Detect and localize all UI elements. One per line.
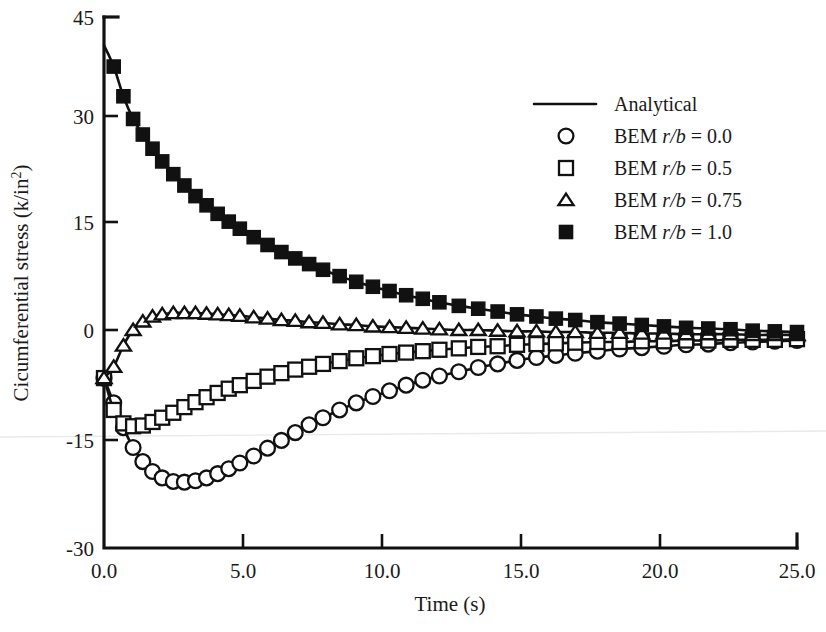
data-point-marker — [451, 364, 466, 379]
data-point-marker — [491, 339, 505, 353]
chart-legend: AnalyticalBEM r/b = 0.0BEM r/b = 0.5BEM … — [534, 93, 742, 243]
data-point-marker — [261, 238, 274, 251]
data-point-marker — [549, 336, 563, 350]
data-point-marker — [274, 366, 288, 380]
data-point-marker — [416, 344, 430, 358]
data-point-marker — [233, 222, 246, 235]
x-tick-label-0: 0.0 — [91, 559, 117, 583]
markers-open-circle — [97, 333, 805, 489]
data-point-marker — [116, 339, 131, 350]
data-point-marker — [702, 322, 715, 335]
data-point-marker — [432, 369, 447, 384]
data-point-marker — [126, 440, 141, 455]
legend-item-1[interactable]: BEM r/b = 0.0 — [559, 125, 732, 147]
data-point-marker — [724, 323, 737, 336]
y-tick-label-neg15: -15 — [66, 429, 94, 453]
data-point-marker — [316, 263, 329, 276]
data-point-marker — [365, 389, 380, 404]
data-point-marker — [247, 231, 260, 244]
data-point-marker — [399, 346, 413, 360]
y-axis-title: Cicumferential stress (k/in2) — [9, 165, 33, 402]
legend-item-3[interactable]: BEM r/b = 0.75 — [558, 189, 742, 211]
data-point-marker — [433, 296, 446, 309]
data-point-marker — [107, 403, 121, 417]
y-axis-title-group: Cicumferential stress (k/in2) — [9, 165, 33, 402]
data-point-marker — [106, 360, 121, 371]
data-point-marker — [333, 354, 347, 368]
data-point-marker — [680, 321, 693, 334]
data-point-marker — [136, 128, 149, 141]
data-point-marker — [260, 441, 275, 456]
data-point-marker — [383, 284, 396, 297]
legend-item-0[interactable]: Analytical — [534, 93, 698, 116]
x-tick-label-25: 25.0 — [779, 559, 816, 583]
x-axis-title: Time (s) — [415, 592, 486, 616]
data-point-marker — [415, 373, 430, 388]
y-tick-label-45: 45 — [73, 6, 94, 30]
data-point-marker — [107, 60, 120, 73]
data-point-marker — [246, 449, 261, 464]
y-tick-label-30: 30 — [73, 105, 94, 129]
y-axis-title-suffix: ) — [9, 165, 33, 172]
data-point-marker — [591, 316, 604, 329]
analytical-curve-1 — [104, 341, 797, 483]
x-tick-label-15: 15.0 — [503, 559, 540, 583]
series-open-circle — [97, 333, 805, 489]
data-point-marker — [529, 337, 543, 351]
data-point-marker — [274, 433, 289, 448]
data-point-marker — [790, 325, 803, 338]
data-point-marker — [117, 90, 130, 103]
data-point-marker — [416, 292, 429, 305]
series-open-square — [97, 332, 804, 433]
data-point-marker — [490, 357, 505, 372]
data-point-marker — [452, 341, 466, 355]
legend-marker-open-circle — [559, 129, 574, 144]
data-point-marker — [472, 302, 485, 315]
y-axis-title-main: Cicumferential stress (k/in — [9, 178, 33, 401]
data-point-marker — [302, 417, 317, 432]
data-point-marker — [350, 275, 363, 288]
x-tick-label-20: 20.0 — [642, 559, 679, 583]
data-point-marker — [316, 410, 331, 425]
legend-label-1: BEM r/b = 0.0 — [614, 125, 732, 147]
data-point-marker — [471, 340, 485, 354]
legend-marker-open-triangle — [558, 194, 573, 205]
data-point-marker — [510, 353, 525, 368]
data-point-marker — [510, 338, 524, 352]
y-axis-ticks — [104, 116, 118, 440]
data-point-marker — [247, 374, 261, 388]
legend-item-2[interactable]: BEM r/b = 0.5 — [559, 157, 732, 179]
data-point-marker — [613, 317, 626, 330]
x-tick-label-5: 5.0 — [230, 559, 256, 583]
data-point-marker — [332, 403, 347, 418]
data-point-marker — [635, 318, 648, 331]
data-point-marker — [303, 257, 316, 270]
data-point-marker — [233, 378, 247, 392]
data-point-marker — [333, 270, 346, 283]
y-tick-label-neg30: -30 — [66, 537, 94, 561]
data-point-marker — [156, 155, 169, 168]
data-point-marker — [471, 360, 486, 375]
data-point-marker — [549, 312, 562, 325]
data-point-marker — [289, 252, 302, 265]
data-point-marker — [261, 370, 275, 384]
data-point-marker — [491, 305, 504, 318]
data-point-marker — [657, 320, 670, 333]
data-point-marker — [288, 363, 302, 377]
data-point-marker — [146, 142, 159, 155]
data-point-marker — [382, 383, 397, 398]
x-axis-ticks — [243, 534, 660, 548]
legend-label-3: BEM r/b = 0.75 — [614, 189, 742, 211]
legend-label-4: BEM r/b = 1.0 — [614, 221, 732, 243]
markers-open-square — [97, 332, 804, 433]
data-point-marker — [288, 425, 303, 440]
y-axis-title-superscript: 2 — [9, 172, 24, 179]
data-point-marker — [302, 360, 316, 374]
data-point-marker — [399, 378, 414, 393]
x-tick-labels: 0.0 5.0 10.0 15.0 20.0 25.0 — [91, 559, 816, 583]
legend-item-4[interactable]: BEM r/b = 1.0 — [559, 221, 732, 243]
data-point-marker — [432, 343, 446, 357]
chart-canvas: 45 30 15 0 -15 -30 0.0 5.0 10.0 15.0 20.… — [0, 0, 826, 632]
legend-label-0: Analytical — [614, 93, 698, 116]
analytical-curve-2 — [104, 339, 797, 426]
